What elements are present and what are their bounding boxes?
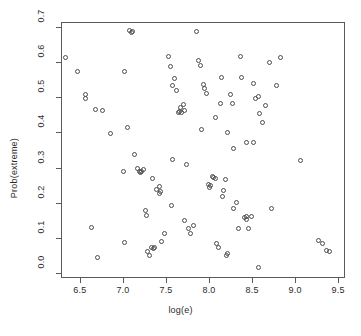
y-tick-label: 0.0 (36, 255, 46, 268)
y-tick-mark (56, 238, 61, 239)
x-tick-label: 7.0 (116, 285, 129, 295)
y-tick-mark (56, 203, 61, 204)
x-tick-label: 7.5 (159, 285, 172, 295)
y-tick-mark (56, 97, 61, 98)
x-tick-label: 9.5 (332, 285, 345, 295)
y-tick-label: 0.5 (36, 80, 46, 93)
y-tick-label: 0.4 (36, 115, 46, 128)
plot-frame (61, 22, 345, 278)
y-tick-label: 0.1 (36, 220, 46, 233)
y-tick-mark (56, 132, 61, 133)
y-tick-label: 0.6 (36, 45, 46, 58)
x-tick-mark (338, 278, 339, 283)
scatter-plot: 6.57.07.58.08.59.09.5 0.00.10.20.30.40.5… (0, 0, 361, 336)
x-tick-mark (252, 278, 253, 283)
y-tick-label: 0.3 (36, 150, 46, 163)
y-tick-label: 0.7 (36, 10, 46, 23)
x-tick-label: 9.0 (289, 285, 302, 295)
x-tick-mark (295, 278, 296, 283)
x-tick-mark (80, 278, 81, 283)
y-axis-label: Prob(extreme) (7, 0, 21, 336)
x-tick-label: 6.5 (73, 285, 86, 295)
x-tick-mark (209, 278, 210, 283)
y-tick-label: 0.2 (36, 185, 46, 198)
y-tick-mark (56, 27, 61, 28)
x-tick-mark (166, 278, 167, 283)
y-tick-mark (56, 62, 61, 63)
x-axis-label: log(e) (0, 305, 361, 315)
y-axis-label-text: Prob(extreme) (9, 138, 19, 198)
x-tick-label: 8.5 (245, 285, 258, 295)
x-tick-label: 8.0 (202, 285, 215, 295)
y-tick-mark (56, 273, 61, 274)
x-tick-mark (123, 278, 124, 283)
y-tick-mark (56, 168, 61, 169)
